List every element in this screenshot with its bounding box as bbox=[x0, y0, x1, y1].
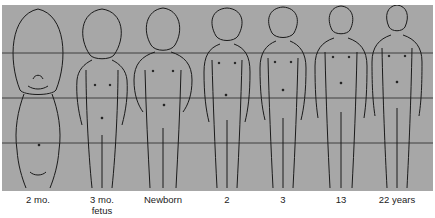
stage-label-22-years: 22 years bbox=[379, 194, 415, 205]
figure-13-years bbox=[315, 6, 367, 188]
stage-label-3-month-fetus: 3 mo.fetus bbox=[90, 194, 114, 216]
stage-label-3-years: 3 bbox=[280, 194, 285, 205]
stage-label-newborn: Newborn bbox=[144, 194, 182, 205]
figure-3-years bbox=[260, 7, 306, 188]
figure-22-years bbox=[372, 5, 422, 188]
stage-labels: 2 mo. 3 mo.fetus Newborn 2 3 13 22 years bbox=[0, 192, 435, 218]
figure-panel bbox=[2, 5, 433, 191]
body-proportions-illustration bbox=[2, 5, 433, 191]
stage-label-2-months: 2 mo. bbox=[26, 194, 50, 205]
figure-3-month-fetus bbox=[77, 9, 128, 188]
figure-2-months bbox=[13, 9, 63, 188]
stage-label-2-years: 2 bbox=[224, 194, 229, 205]
stage-label-13-years: 13 bbox=[336, 194, 347, 205]
